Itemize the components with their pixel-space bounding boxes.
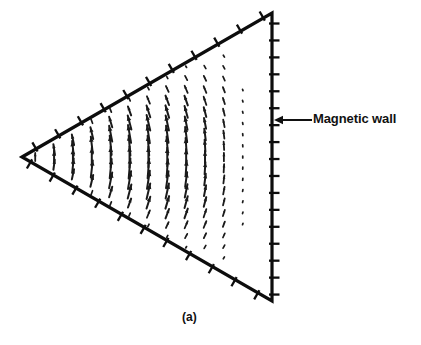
triangular-resonator-field-plot — [0, 0, 421, 345]
field-vector — [167, 77, 168, 79]
figure-background — [0, 0, 421, 345]
magnetic-wall-label: Magnetic wall — [313, 111, 396, 126]
field-vector — [167, 235, 168, 237]
field-vector — [223, 257, 224, 259]
figure-caption: (a) — [182, 310, 197, 324]
figure-container: Magnetic wall (a) — [0, 0, 421, 345]
field-vector — [223, 55, 224, 57]
field-vector — [186, 247, 187, 248]
field-vector — [148, 87, 149, 89]
field-vector — [186, 66, 187, 67]
field-vector — [148, 224, 149, 226]
